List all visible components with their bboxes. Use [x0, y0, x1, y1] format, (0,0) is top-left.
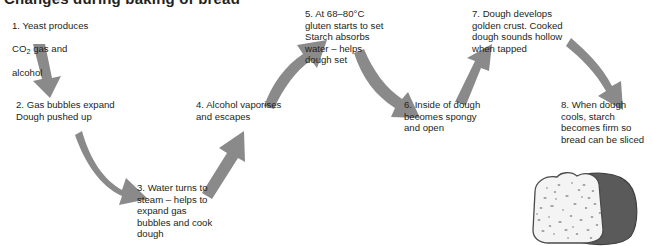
step-1-co2-prefix: CO: [12, 43, 26, 54]
step-8-bread-sliced: 8. When dough cools, starch becomes firm…: [561, 99, 644, 145]
sliced-bread-loaf: [523, 170, 649, 246]
bread-baking-flow-diagram: Changes during baking of bread: [0, 0, 653, 246]
bread-slice-face: [533, 173, 603, 243]
step-7-golden-crust: 7. Dough develops golden crust. Cooked d…: [472, 8, 563, 54]
step-1-line-3: alcohol: [12, 67, 88, 79]
page-heading: Changes during baking of bread: [0, 0, 653, 7]
step-1-co2-suffix: gas and: [31, 43, 68, 54]
step-6-inside-spongy: 6. Inside of dough becomes spongy and op…: [404, 99, 480, 134]
step-2-gas-bubbles-expand: 2. Gas bubbles expand Dough pushed up: [16, 99, 115, 122]
step-5-gluten-sets: 5. At 68–80°C gluten starts to set Starc…: [305, 8, 383, 66]
page-heading-text: Changes during baking of bread: [4, 0, 653, 6]
step-1-line-2: CO2 gas and: [12, 43, 88, 56]
step-4-alcohol-vaporises: 4. Alcohol vaporises and escapes: [196, 99, 281, 122]
step-3-water-turns-to-steam: 3. Water turns to steam – helps to expan…: [137, 182, 212, 240]
step-1-co2-subscript: 2: [26, 47, 30, 56]
step-1-line-1: 1. Yeast produces: [12, 20, 88, 32]
step-1-yeast-produces-gas: 1. Yeast produces CO2 gas and alcohol: [12, 8, 88, 90]
